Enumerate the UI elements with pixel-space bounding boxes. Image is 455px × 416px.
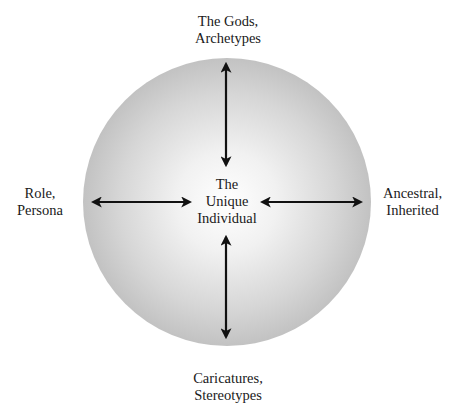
pole-label-left: Role, Persona	[0, 185, 80, 219]
pole-label-left-line-2: Persona	[0, 202, 80, 219]
pole-label-right-line-1: Ancestral,	[370, 185, 455, 202]
pole-label-bottom-line-1: Caricatures,	[150, 370, 306, 387]
pole-label-bottom: Caricatures, Stereotypes	[150, 370, 306, 404]
pole-label-top-line-2: Archetypes	[150, 30, 306, 47]
pole-label-top-line-1: The Gods,	[150, 13, 306, 30]
center-label: The Unique Individual	[187, 176, 267, 227]
center-label-line-3: Individual	[187, 210, 267, 227]
pole-label-right-line-2: Inherited	[370, 202, 455, 219]
center-label-line-1: The	[187, 176, 267, 193]
pole-label-right: Ancestral, Inherited	[370, 185, 455, 219]
pole-label-bottom-line-2: Stereotypes	[150, 387, 306, 404]
pole-label-left-line-1: Role,	[0, 185, 80, 202]
center-label-line-2: Unique	[187, 193, 267, 210]
pole-label-top: The Gods, Archetypes	[150, 13, 306, 47]
